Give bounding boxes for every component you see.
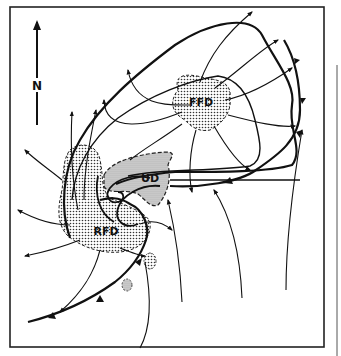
updraft-label: UD <box>141 172 159 185</box>
north-arrow-icon: N <box>31 22 43 125</box>
small-cell-2 <box>122 279 132 291</box>
north-label: N <box>32 79 42 93</box>
rfd-label: RFD <box>93 225 118 238</box>
supercell-diagram: N <box>0 0 341 356</box>
ffd-label: FFD <box>189 96 213 109</box>
